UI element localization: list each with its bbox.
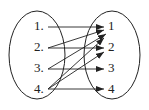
left-label-3: 3. [34,60,44,75]
right-label-2: 2 [108,39,115,54]
arrow-4-to-2 [48,52,104,89]
left-label-1: 1. [34,18,44,33]
mapping-arrows [48,27,106,89]
left-label-4: 4. [34,81,44,96]
left-label-2: 2. [34,39,44,54]
mapping-diagram: 1. 2. 3. 4. 1 2 3 4 [0,0,149,110]
right-label-3: 3 [108,60,115,75]
right-label-4: 4 [108,81,115,96]
arrow-3-to-1 [48,34,106,69]
right-label-1: 1 [108,18,115,33]
